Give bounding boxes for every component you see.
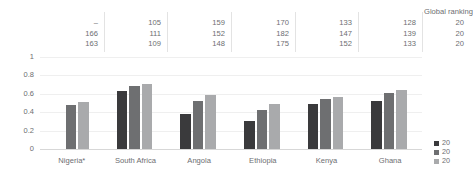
gridline: [40, 131, 422, 132]
column-separator: [295, 12, 296, 52]
bar: [66, 105, 77, 149]
y-axis-tick-label: 1: [0, 53, 34, 61]
y-axis-tick-label: 0.8: [0, 71, 34, 79]
bar: [320, 99, 331, 149]
gridline: [40, 57, 422, 58]
bar: [180, 114, 191, 149]
x-axis-category-label: Angola: [167, 157, 231, 165]
x-axis-category-label: Ghana: [358, 157, 422, 165]
ranking-cell: 133: [403, 40, 416, 48]
ranking-cell: 111: [149, 30, 161, 38]
x-axis-category-label: Ethiopia: [231, 157, 295, 165]
bar: [384, 93, 395, 149]
y-axis-tick-label: 0: [0, 145, 34, 153]
ranking-cell: –: [94, 19, 98, 27]
x-axis-category-label: Kenya: [295, 157, 359, 165]
global-ranking-table: Global ranking –105159170133128166111152…: [0, 0, 465, 52]
ranking-cell: 170: [276, 19, 289, 27]
bar: [129, 86, 140, 149]
y-axis-tick-label: 0.6: [0, 90, 34, 98]
gridline: [40, 112, 422, 113]
ranking-cell: 159: [212, 19, 225, 27]
ranking-cell: 139: [403, 30, 416, 38]
column-separator: [358, 12, 359, 52]
ranking-year-label: 20: [456, 40, 464, 48]
y-axis-tick-label: 0.4: [0, 108, 34, 116]
bar: [78, 102, 89, 149]
ranking-cell: 128: [403, 19, 416, 27]
ranking-cell: 152: [212, 30, 225, 38]
plot-area: [40, 57, 422, 149]
ranking-cell: 182: [276, 30, 289, 38]
bar: [269, 104, 280, 149]
bar: [333, 97, 344, 149]
bar: [371, 101, 382, 149]
axis-baseline: [40, 149, 422, 150]
legend-swatch: [434, 150, 439, 155]
global-ranking-header: Global ranking: [424, 8, 473, 16]
legend-label: 20: [442, 139, 450, 146]
bar: [142, 84, 153, 149]
column-separator: [167, 12, 168, 52]
legend-label: 20: [442, 148, 450, 155]
x-axis-category-label: Nigeria*: [40, 157, 104, 165]
ranking-cell: 148: [212, 40, 225, 48]
ranking-cell: 105: [148, 19, 161, 27]
legend-swatch: [434, 141, 439, 146]
bar: [244, 121, 255, 149]
legend-label: 20: [442, 157, 450, 164]
bar: [308, 104, 319, 149]
ranking-cell: 109: [148, 40, 161, 48]
column-separator: [231, 12, 232, 52]
bar: [117, 91, 128, 149]
ranking-cell: 175: [276, 40, 289, 48]
ranking-cell: 152: [339, 40, 352, 48]
column-separator: [422, 12, 423, 52]
ranking-cell: 133: [339, 19, 352, 27]
gridline: [40, 75, 422, 76]
ranking-cell: 163: [85, 40, 98, 48]
bar: [205, 95, 216, 149]
ranking-year-label: 20: [456, 19, 464, 27]
ranking-year-label: 20: [456, 30, 464, 38]
x-axis-category-label: South Africa: [104, 157, 168, 165]
bar: [257, 110, 268, 149]
y-axis-tick-label: 0.2: [0, 127, 34, 135]
bar: [193, 101, 204, 149]
legend-swatch: [434, 159, 439, 164]
column-separator: [104, 12, 105, 52]
ranking-cell: 166: [85, 30, 98, 38]
gridline: [40, 94, 422, 95]
ranking-cell: 147: [339, 30, 352, 38]
bar: [396, 90, 407, 149]
